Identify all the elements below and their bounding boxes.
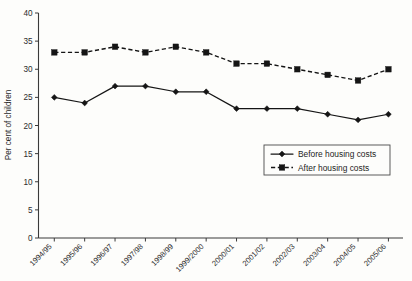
data-point-marker xyxy=(386,111,392,117)
x-tick-label: 2003/04 xyxy=(301,242,327,268)
y-axis-title-text: Per cent of children xyxy=(4,89,13,160)
x-tick-label: 2001/02 xyxy=(241,242,267,268)
data-point-marker xyxy=(51,94,57,100)
y-axis-title: Per cent of children xyxy=(4,89,13,160)
data-point-marker xyxy=(325,72,331,78)
data-point-marker xyxy=(112,44,118,50)
x-tick-label: 1996/97 xyxy=(89,242,115,268)
data-point-marker xyxy=(234,106,240,112)
x-tick-label: 1998/99 xyxy=(149,242,175,268)
y-tick-label: 15 xyxy=(23,150,33,159)
x-axis: 1994/951995/961996/971997/981998/991999/… xyxy=(28,238,388,274)
series-line-2 xyxy=(54,47,388,81)
data-point-marker xyxy=(203,50,209,56)
x-tick-label: 1997/98 xyxy=(119,242,145,268)
x-tick-label: 2002/03 xyxy=(271,242,297,268)
y-tick-label: 35 xyxy=(23,37,33,46)
data-point-marker xyxy=(355,117,361,123)
data-point-marker xyxy=(51,50,57,56)
data-point-marker xyxy=(143,50,149,56)
y-tick-label: 30 xyxy=(23,65,33,74)
y-tick-label: 20 xyxy=(23,122,33,131)
x-tick-label: 2005/06 xyxy=(362,242,388,268)
chart-legend: Before housing costsAfter housing costs xyxy=(264,145,390,175)
data-point-marker xyxy=(173,89,179,95)
data-series-group xyxy=(51,44,391,123)
x-tick-label: 2000/01 xyxy=(210,242,236,268)
data-point-marker xyxy=(82,100,88,106)
x-tick-label: 1995/96 xyxy=(58,242,84,268)
data-point-marker xyxy=(294,106,300,112)
y-axis: 0510152025303540 xyxy=(23,9,38,243)
y-tick-label: 5 xyxy=(28,206,33,215)
data-point-marker xyxy=(264,61,270,67)
data-point-marker xyxy=(294,66,300,72)
y-tick-label: 10 xyxy=(23,178,33,187)
data-point-marker xyxy=(203,89,209,95)
data-point-marker xyxy=(112,83,118,89)
y-tick-label: 25 xyxy=(23,93,33,102)
y-tick-label: 0 xyxy=(28,234,33,243)
data-point-marker xyxy=(234,61,240,67)
legend-label: After housing costs xyxy=(298,163,369,173)
y-tick-label: 40 xyxy=(23,9,33,18)
chart-container: Per cent of children 0510152025303540 19… xyxy=(0,0,412,281)
series-line-1 xyxy=(54,86,388,120)
line-chart: Per cent of children 0510152025303540 19… xyxy=(0,0,412,281)
legend-label: Before housing costs xyxy=(298,149,376,159)
data-point-marker xyxy=(355,78,361,84)
x-tick-label: 1994/95 xyxy=(28,242,54,268)
legend-marker-square xyxy=(279,165,285,171)
data-point-marker xyxy=(173,44,179,50)
x-tick-label: 2004/05 xyxy=(332,242,358,268)
data-point-marker xyxy=(82,50,88,56)
data-point-marker xyxy=(325,111,331,117)
x-tick-label: 1999/2000 xyxy=(174,242,206,274)
data-point-marker xyxy=(264,106,270,112)
data-point-marker xyxy=(143,83,149,89)
data-point-marker xyxy=(386,66,392,72)
